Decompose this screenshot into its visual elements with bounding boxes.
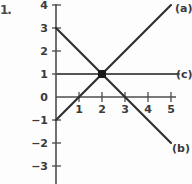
- y-tick-label-minus-3: −3: [31, 160, 48, 173]
- x-tick-label-1: 1: [75, 103, 83, 116]
- series-line-b: [56, 28, 171, 143]
- series-line-a: [56, 5, 171, 120]
- intersection-point-marker: [98, 70, 106, 78]
- y-tick-label-0: 0: [40, 91, 48, 104]
- y-tick-label-minus-1: −1: [31, 114, 48, 127]
- x-tick-label-4: 4: [144, 103, 152, 116]
- series-label-b: (b): [172, 142, 190, 155]
- y-tick-label-3: 3: [40, 22, 48, 35]
- x-tick-label-5: 5: [167, 103, 175, 116]
- figure-panel: 1. 4 3 2 1 0 −1 −2 −3 1 2 3 4 5: [0, 0, 192, 184]
- x-tick-label-2: 2: [98, 103, 106, 116]
- coordinate-plot: 4 3 2 1 0 −1 −2 −3 1 2 3 4 5 (a) (c) (b): [0, 0, 192, 184]
- y-tick-label-1: 1: [40, 68, 48, 81]
- series-label-c: (c): [176, 68, 192, 81]
- x-tick-label-3: 3: [121, 103, 129, 116]
- series-label-a: (a): [175, 2, 192, 15]
- y-tick-label-2: 2: [40, 45, 48, 58]
- y-tick-label-minus-2: −2: [31, 137, 48, 150]
- y-tick-label-4: 4: [40, 0, 48, 12]
